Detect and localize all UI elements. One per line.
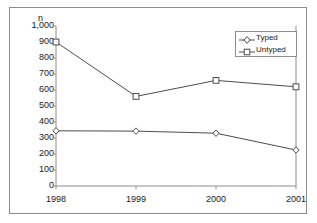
diamond-marker-icon xyxy=(238,32,256,44)
legend-label-untyped: Untyped xyxy=(256,46,286,54)
data-point-marker-square xyxy=(293,84,299,90)
data-point-marker-square xyxy=(213,78,219,84)
data-point-marker-diamond xyxy=(53,128,59,134)
legend-label-typed: Typed xyxy=(256,34,278,42)
data-point-marker-diamond xyxy=(293,147,299,153)
series-line-typed xyxy=(56,131,296,150)
data-point-marker-square xyxy=(53,39,59,45)
chart-figure: n 01002003004005006007008009001,000 1998… xyxy=(0,0,317,223)
data-point-marker-diamond xyxy=(133,128,139,134)
legend-entry-typed: Typed xyxy=(236,32,296,44)
square-marker-icon xyxy=(238,44,256,56)
legend-entry-untyped: Untyped xyxy=(236,44,296,56)
data-point-marker-square xyxy=(133,94,139,100)
chart-legend: Typed Untyped xyxy=(235,31,297,57)
data-point-marker-diamond xyxy=(213,130,219,136)
